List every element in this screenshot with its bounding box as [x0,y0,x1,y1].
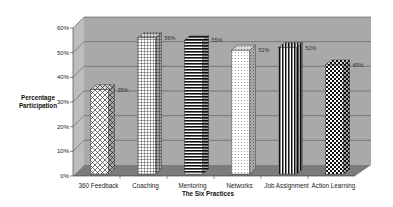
y-tick-label: 10% [57,148,70,154]
value-label: 55% [212,37,223,43]
bar-front [185,40,203,174]
x-category-label: Action Learning [312,182,356,190]
y-axis-title: PercentageParticipation [19,94,57,110]
bar-front [279,48,297,174]
bar-side-shade [344,60,350,174]
bar-side-shade [156,33,162,174]
bar-front [326,65,344,174]
y-tick-label: 50% [57,50,70,56]
bar-front [232,50,250,174]
value-label: 52% [306,45,317,51]
y-tick-label: 20% [57,124,70,130]
y-tick-label: 0% [60,173,69,179]
x-category-label: 360 Feedback [79,182,120,189]
value-label: 35% [118,87,129,93]
bar-chart: 0%10%20%30%40%50%60%35%360 Feedback56%Co… [0,0,393,207]
y-tick-label: 40% [57,74,70,80]
bar-side-shade [203,35,209,174]
bar-front [138,38,156,174]
x-category-label: Networks [226,182,252,189]
bar-side-shade [109,85,115,174]
value-label: 51% [259,47,270,53]
bar-front [91,90,109,174]
x-axis-title: The Six Practices [182,190,235,197]
x-category-label: Job Assignment [264,182,309,190]
x-category-label: Mentoring [178,182,206,190]
y-tick-label: 30% [57,99,70,105]
bar-side-shade [297,43,303,174]
x-category-label: Coaching [132,182,159,190]
value-label: 45% [353,62,364,68]
y-tick-label: 60% [57,25,70,31]
value-label: 56% [165,35,176,41]
bar-side-shade [250,45,256,174]
